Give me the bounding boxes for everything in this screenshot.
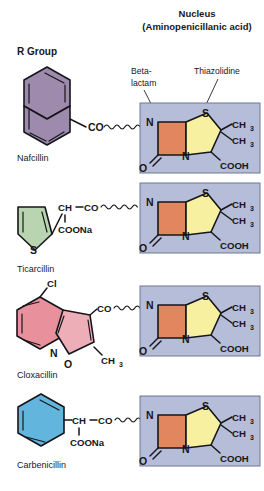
nucleus-methyl-1-sub-2: 3: [250, 205, 254, 212]
r-group-header: R Group: [17, 46, 57, 57]
drug-name-ticarcillin: Ticarcillin: [17, 264, 54, 274]
nucleus-box-nafcillin: N O S N CH 3 CH 3 COOH: [139, 103, 260, 174]
carbenicillin-benzene-group: [18, 394, 64, 446]
nucleus-carboxyl-1: COOH: [220, 160, 249, 171]
nucleus-sulfur-1: S: [202, 107, 209, 119]
nucleus-carboxyl-4: COOH: [220, 453, 249, 464]
carbenicillin-benzene-ring: [18, 394, 64, 446]
penicillin-structures-figure: Nucleus (Aminopenicillanic acid) R Group…: [0, 0, 264, 491]
nucleus-methyl-1-4: CH: [232, 412, 246, 423]
cloxacillin-isoxazole-group: [56, 310, 94, 354]
row-carbenicillin: CH CO COONa Carbenicillin N O S N CH 3: [17, 394, 260, 470]
nucleus-methyl-2-sub-2: 3: [250, 221, 254, 228]
nucleus-methyl-2-1: CH: [232, 135, 246, 146]
ticarcillin-coona-label: COONa: [58, 224, 93, 235]
ticarcillin-co-label: CO: [84, 202, 99, 213]
nucleus-ring-n-4: N: [182, 443, 190, 455]
cloxacillin-cl-label: Cl: [47, 278, 57, 289]
cloxacillin-co-label: CO: [97, 303, 112, 314]
nucleus-methyl-2-sub-1: 3: [250, 141, 254, 148]
ticarcillin-wavy-bond: [101, 205, 137, 209]
nucleus-ring-n-1: N: [182, 150, 190, 162]
cloxacillin-cl-bond: [40, 288, 47, 297]
cloxacillin-benzene-ring: [17, 297, 63, 349]
nucleus-methyl-1-3: CH: [232, 302, 246, 313]
drug-name-nafcillin: Nafcillin: [17, 153, 49, 163]
nucleus-methyl-1-sub-1: 3: [250, 125, 254, 132]
nucleus-title-line1: Nucleus: [179, 8, 216, 19]
nucleus-carbonyl-o-1: O: [139, 162, 147, 174]
cloxacillin-wavy-bond: [114, 306, 140, 310]
nucleus-sulfur-3: S: [202, 290, 209, 302]
nafcillin-wavy-bond: [104, 125, 140, 129]
nucleus-methyl-1-2: CH: [232, 199, 246, 210]
carbenicillin-co-label: CO: [98, 415, 113, 426]
nucleus-amide-n-3: N: [146, 299, 154, 311]
figure-canvas: Nucleus (Aminopenicillanic acid) R Group…: [0, 0, 264, 491]
carbenicillin-coona-label: COONa: [70, 437, 105, 448]
cloxacillin-ch3-bond: [94, 347, 102, 355]
naphthalene-ring-group: [24, 67, 70, 145]
nucleus-amide-n-2: N: [146, 196, 154, 208]
nucleus-ring-n-3: N: [182, 333, 190, 345]
nucleus-sulfur-2: S: [202, 187, 209, 199]
nucleus-methyl-1-1: CH: [232, 119, 246, 130]
thiazolidine-callout: Thiazolidine: [194, 66, 240, 76]
cloxacillin-isoxazole-ring: [56, 310, 94, 354]
cloxacillin-o-label: O: [64, 358, 72, 370]
nucleus-amide-n-1: N: [146, 116, 154, 128]
nucleus-amide-n-4: N: [146, 409, 154, 421]
drug-name-cloxacillin: Cloxacillin: [17, 370, 58, 380]
nucleus-title-line2: (Aminopenicillanic acid): [142, 21, 251, 32]
nucleus-methyl-2-sub-3: 3: [250, 324, 254, 331]
nafcillin-co-label: CO: [88, 121, 104, 133]
row-ticarcillin: S CH CO COONa Ticarcillin N O S N: [17, 183, 260, 274]
nucleus-methyl-2-3: CH: [232, 318, 246, 329]
nucleus-carboxyl-2: COOH: [220, 240, 249, 251]
ticarcillin-sulfur-label: S: [30, 244, 37, 256]
carbenicillin-wavy-bond: [115, 418, 141, 422]
cloxacillin-ch3-sub: 3: [119, 361, 123, 368]
nucleus-methyl-2-2: CH: [232, 215, 246, 226]
cloxacillin-ch3-label: CH: [101, 355, 115, 366]
nafcillin-ring-to-co-bond: [70, 119, 86, 127]
cloxacillin-ring-to-co-bond: [90, 309, 97, 315]
cloxacillin-n-label: N: [50, 347, 58, 359]
nucleus-carbonyl-o-3: O: [139, 345, 147, 357]
nucleus-carbonyl-o-4: O: [139, 455, 147, 467]
nucleus-ring-n-2: N: [182, 230, 190, 242]
beta-lactam-callout-line2: lactam: [131, 78, 156, 88]
nucleus-methyl-2-sub-4: 3: [250, 434, 254, 441]
nucleus-methyl-1-sub-4: 3: [250, 418, 254, 425]
nucleus-methyl-1-sub-3: 3: [250, 308, 254, 315]
nucleus-carbonyl-o-2: O: [139, 242, 147, 254]
drug-name-carbenicillin: Carbenicillin: [17, 460, 66, 470]
nucleus-sulfur-4: S: [202, 400, 209, 412]
nucleus-carboxyl-3: COOH: [220, 343, 249, 354]
nucleus-box-carbenicillin: N O S N CH 3 CH 3 COOH: [139, 396, 260, 467]
nucleus-box-cloxacillin: N O S N CH 3 CH 3 COOH: [139, 286, 260, 357]
nucleus-methyl-2-4: CH: [232, 428, 246, 439]
beta-lactam-callout-line1: Beta-: [131, 66, 152, 76]
row-cloxacillin: Cl N O CH 3 CO Cloxacillin N: [17, 278, 260, 380]
cloxacillin-benzene-group: [17, 297, 63, 349]
ticarcillin-ch-label: CH: [58, 202, 72, 213]
carbenicillin-ch-label: CH: [72, 415, 86, 426]
nucleus-box-ticarcillin: N O S N CH 3 CH 3 COOH: [139, 183, 260, 254]
